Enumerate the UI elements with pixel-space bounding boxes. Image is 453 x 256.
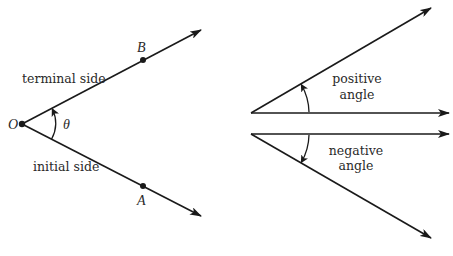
standard-angle-diagram: O θ B A terminal side initial side	[8, 30, 201, 216]
theta-arc	[52, 109, 56, 139]
negative-angle-diagram: negative angle	[251, 134, 449, 238]
negative-angle-arc	[301, 135, 309, 163]
point-b	[140, 57, 146, 63]
positive-angle-diagram: positive angle	[251, 8, 449, 113]
vertex-point	[19, 121, 25, 127]
point-a	[140, 183, 146, 189]
positive-angle-arc	[301, 85, 309, 113]
vertex-label: O	[8, 117, 18, 132]
angle-diagram: O θ B A terminal side initial side posit…	[0, 0, 453, 256]
positive-angle-label-line1: positive	[332, 71, 381, 86]
negative-angle-label-line1: negative	[329, 143, 383, 158]
point-b-label: B	[137, 40, 146, 55]
terminal-side-label: terminal side	[22, 71, 106, 86]
theta-label: θ	[63, 117, 70, 132]
negative-angle-label-line2: angle	[339, 158, 374, 173]
positive-angle-label-line2: angle	[340, 87, 375, 102]
point-a-label: A	[136, 193, 146, 208]
initial-side-label: initial side	[33, 159, 99, 174]
